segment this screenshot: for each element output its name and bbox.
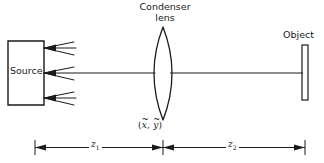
dimension-label-z2: z2 [226, 139, 239, 151]
coords-y-symbol: y [153, 120, 158, 130]
dimension-line [35, 140, 305, 155]
ray-lower [44, 92, 76, 105]
lens-center-coordinates-label: (x, y) [138, 120, 162, 130]
optical-diagram: Source Condenser lens Object (x, y) z1 z… [0, 0, 324, 163]
condenser-lens-label: Condenser lens [131, 2, 199, 23]
source-label: Source [10, 66, 43, 77]
dimension-label-z1: z1 [89, 139, 102, 151]
coords-x-symbol: x [142, 120, 147, 130]
ray-center [44, 67, 155, 80]
diagram-canvas [0, 0, 324, 163]
ray-upper [44, 42, 76, 55]
light-rays [44, 42, 155, 105]
condenser-lens-label-line2: lens [131, 13, 199, 24]
z1-subscript: 1 [96, 144, 100, 151]
z2-subscript: 2 [233, 144, 237, 151]
condenser-lens-shape [154, 27, 172, 120]
object-label: Object [283, 30, 314, 41]
